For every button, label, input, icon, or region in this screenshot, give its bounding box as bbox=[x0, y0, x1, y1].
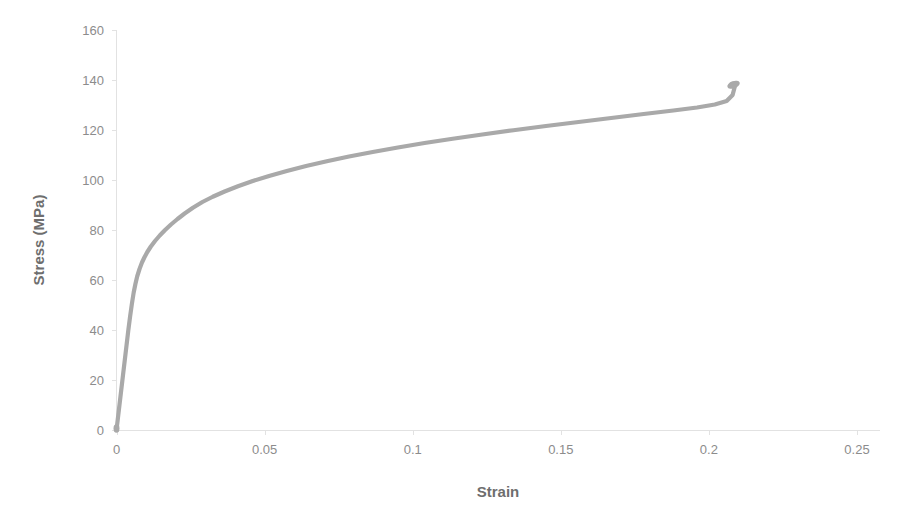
y-tick-label: 20 bbox=[90, 373, 104, 388]
x-tick-label: 0.25 bbox=[844, 442, 869, 457]
y-tick-label: 120 bbox=[82, 123, 104, 138]
x-tick-label: 0 bbox=[113, 442, 120, 457]
y-axis-title: Stress (MPa) bbox=[30, 195, 47, 286]
y-tick-label: 0 bbox=[97, 423, 104, 438]
chart-canvas: 020406080100120140160 00.050.10.150.20.2… bbox=[0, 0, 917, 516]
y-tick-label: 140 bbox=[82, 73, 104, 88]
y-tick-label: 40 bbox=[90, 323, 104, 338]
x-axis-title: Strain bbox=[477, 483, 520, 500]
x-tick-label: 0.1 bbox=[404, 442, 422, 457]
y-tick-label: 100 bbox=[82, 173, 104, 188]
x-tick-label: 0.05 bbox=[252, 442, 277, 457]
x-tick-label: 0.15 bbox=[548, 442, 573, 457]
y-tick-label: 160 bbox=[82, 23, 104, 38]
stress-strain-chart: 020406080100120140160 00.050.10.150.20.2… bbox=[0, 0, 917, 516]
x-tick-label: 0.2 bbox=[700, 442, 718, 457]
series-origin-marker-0 bbox=[114, 424, 120, 432]
y-tick-label: 80 bbox=[90, 223, 104, 238]
y-tick-label: 60 bbox=[90, 273, 104, 288]
chart-background bbox=[0, 0, 917, 516]
